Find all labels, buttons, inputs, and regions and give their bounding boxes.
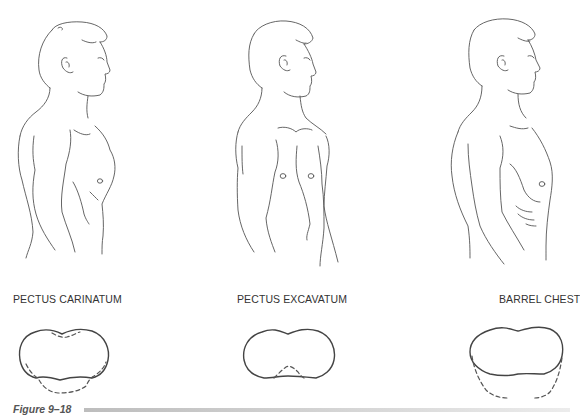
cross-section-barrel-chest — [450, 320, 570, 400]
torso-illustration-carinatum — [0, 0, 190, 280]
figure-pectus-excavatum: PECTUS EXCAVATUM — [200, 0, 390, 300]
cross-section-pectus-excavatum — [220, 320, 340, 395]
torso-illustration-barrel-chest — [400, 0, 570, 280]
label-pectus-excavatum: PECTUS EXCAVATUM — [237, 293, 347, 305]
figure-pectus-carinatum: PECTUS CARINATUM — [0, 0, 190, 300]
figure-barrel-chest: BARREL CHEST — [400, 0, 570, 300]
torso-illustration-excavatum — [200, 0, 390, 280]
figure-caption: Figure 9–18 — [13, 403, 71, 415]
label-pectus-carinatum: PECTUS CARINATUM — [13, 293, 122, 305]
cross-section-pectus-carinatum — [0, 320, 120, 395]
caption-rule — [84, 408, 570, 412]
label-barrel-chest: BARREL CHEST — [499, 293, 580, 305]
